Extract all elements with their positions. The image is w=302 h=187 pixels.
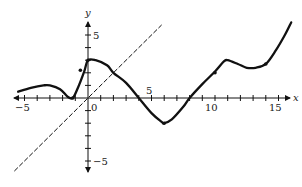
x-tick-label-10: 10 bbox=[205, 102, 218, 113]
x-tick-label-minus5: −5 bbox=[15, 102, 30, 113]
y-tick-label-minus5: −5 bbox=[93, 156, 108, 167]
curve-point-marker bbox=[162, 121, 166, 125]
x-tick-label-15: 15 bbox=[269, 102, 282, 113]
curve-point-marker bbox=[71, 96, 75, 100]
curve-point-marker bbox=[86, 58, 90, 62]
function-graph: x y −5 0 5 10 15 5 −5 bbox=[0, 0, 302, 187]
x-tick-label-5: 5 bbox=[146, 85, 152, 96]
y-axis-label: y bbox=[84, 7, 91, 18]
y-tick-label-5: 5 bbox=[93, 30, 99, 41]
curve-point-marker bbox=[79, 68, 83, 72]
curve-point-marker bbox=[213, 71, 217, 75]
origin-label: 0 bbox=[91, 102, 97, 113]
function-curve bbox=[18, 22, 291, 123]
curve-point-marker bbox=[264, 62, 268, 66]
x-axis-label: x bbox=[293, 92, 299, 103]
curve-marked-points bbox=[71, 58, 268, 125]
